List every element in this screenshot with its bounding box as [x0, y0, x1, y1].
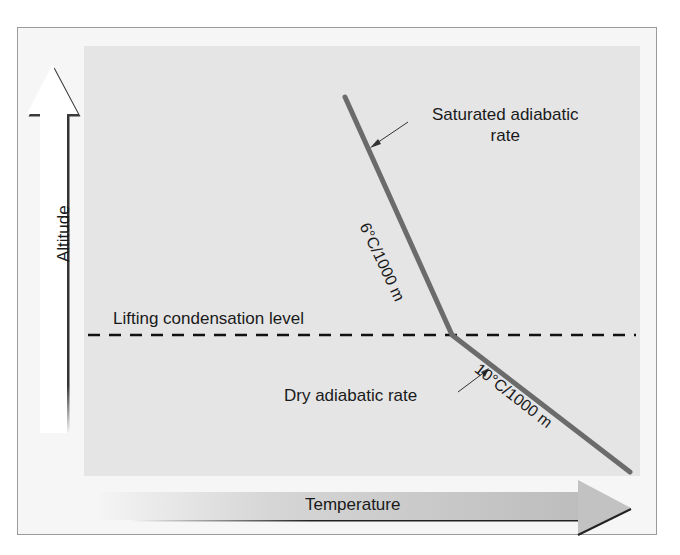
saturated-adiabatic-label: Saturated adiabatic rate — [432, 104, 579, 146]
temperature-axis-label: Temperature — [305, 495, 400, 515]
diagram-graphics — [0, 0, 680, 555]
saturated-label-line1: Saturated adiabatic — [432, 104, 579, 125]
saturated-pointer-arrow-icon — [370, 122, 408, 148]
dry-adiabatic-label: Dry adiabatic rate — [284, 386, 417, 406]
saturated-label-line2: rate — [432, 125, 579, 146]
lifting-condensation-level-label: Lifting condensation level — [113, 309, 304, 329]
altitude-axis-label: Altitude — [54, 205, 74, 262]
